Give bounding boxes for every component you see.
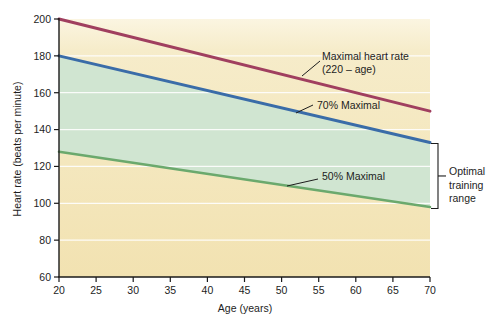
x-tick-label: 45 [239,284,251,296]
optimal-range-bracket [431,143,438,208]
annotation-maximal-line2: (220 – age) [322,63,409,76]
y-tick-label: 160 [33,87,51,99]
annotation-optimal-line2: training [449,179,485,193]
x-tick-label: 65 [387,284,399,296]
x-tick-label: 35 [164,284,176,296]
x-tick-label: 30 [127,284,139,296]
y-tick-label: 120 [33,160,51,172]
annotation-maximal-line1: Maximal heart rate [322,50,409,63]
y-tick-label: 80 [39,234,51,246]
x-tick-label: 70 [424,284,436,296]
x-tick-label: 55 [313,284,325,296]
x-tick-label: 40 [202,284,214,296]
annotation-50-percent-maximal: 50% Maximal [322,170,385,183]
annotation-70-percent-maximal: 70% Maximal [317,99,380,112]
x-axis-label: Age (years) [218,302,272,315]
chart-canvas: 6080100120140160180200202530354045505560… [0,0,491,331]
annotation-maximal-heart-rate: Maximal heart rate (220 – age) [322,50,409,76]
x-tick-label: 20 [53,284,65,296]
x-tick-label: 60 [350,284,362,296]
heart-rate-age-chart: 6080100120140160180200202530354045505560… [0,0,491,331]
y-axis-label: Heart rate (beats per minute) [11,82,24,217]
annotation-optimal-line1: Optimal [449,165,485,179]
y-tick-label: 140 [33,123,51,135]
y-tick-label: 200 [33,13,51,25]
x-tick-label: 25 [90,284,102,296]
annotation-optimal-training-range: Optimal training range [449,165,485,206]
x-tick-label: 50 [276,284,288,296]
y-tick-label: 180 [33,50,51,62]
y-tick-label: 60 [39,271,51,283]
annotation-optimal-line3: range [449,192,485,206]
y-tick-label: 100 [33,197,51,209]
